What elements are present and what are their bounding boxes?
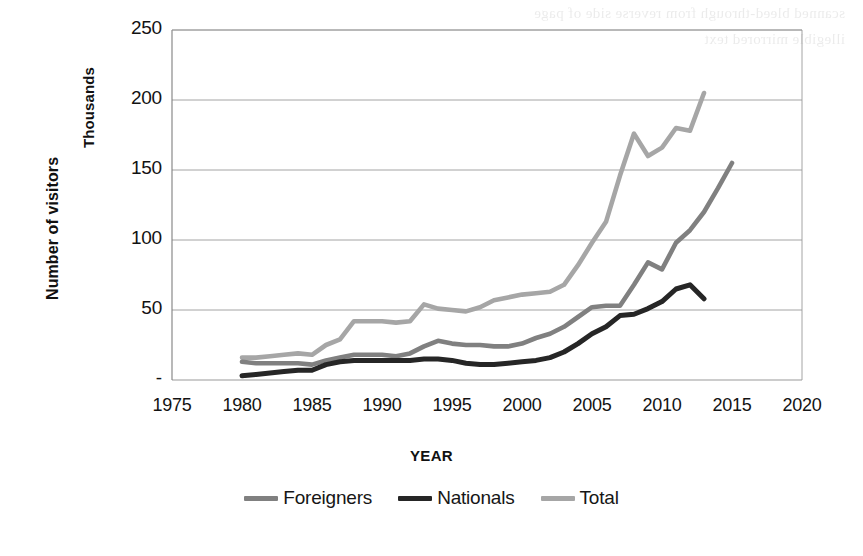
x-axis-tick-label: 1980	[207, 395, 277, 416]
legend-item-label: Total	[580, 487, 619, 509]
chart-legend: ForeignersNationalsTotal	[0, 487, 863, 509]
x-axis-tick-labels: 1975198019851990199520002005201020152020	[0, 0, 863, 556]
legend-item-total[interactable]: Total	[541, 487, 619, 509]
x-axis-title: YEAR	[0, 447, 863, 464]
x-axis-tick-label: 1985	[277, 395, 347, 416]
legend-line-swatch-icon	[244, 496, 278, 501]
x-axis-tick-label: 2005	[557, 395, 627, 416]
x-axis-tick-label: 1995	[417, 395, 487, 416]
legend-line-swatch-icon	[541, 496, 575, 501]
x-axis-tick-label: 1990	[347, 395, 417, 416]
x-axis-tick-label: 1975	[137, 395, 207, 416]
x-axis-tick-label: 2000	[487, 395, 557, 416]
x-axis-tick-label: 2020	[767, 395, 837, 416]
legend-item-foreigners[interactable]: Foreigners	[244, 487, 372, 509]
x-axis-tick-label: 2015	[697, 395, 767, 416]
x-axis-tick-label: 2010	[627, 395, 697, 416]
legend-item-label: Nationals	[437, 487, 514, 509]
legend-line-swatch-icon	[398, 496, 432, 501]
visitors-line-chart: Number of visitors Thousands -5010015020…	[0, 0, 863, 556]
legend-item-nationals[interactable]: Nationals	[398, 487, 514, 509]
legend-item-label: Foreigners	[283, 487, 372, 509]
